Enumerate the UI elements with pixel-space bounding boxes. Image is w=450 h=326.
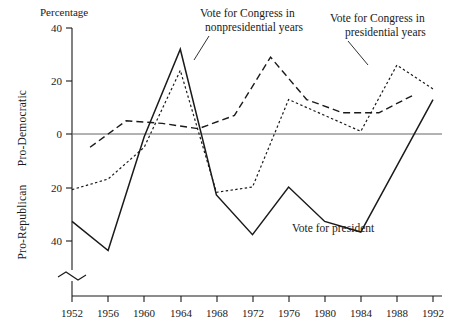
x-ticks-group: 1952 1956 1960 1964 1968 1972 1976 1980 … [61, 296, 444, 319]
y-tick-label-0: 0 [57, 128, 63, 140]
annotation-congress-nonpresidential: Vote for Congress in nonpresidential yea… [194, 7, 304, 60]
x-tick-label-1972: 1972 [242, 307, 264, 319]
x-tick-label-1968: 1968 [206, 307, 229, 319]
y-axis-unit-label: Percentage [40, 6, 88, 18]
y-axis-label-pro-republican: Pro-Republican [16, 184, 29, 259]
annotation-president-line-1: Vote for president [292, 222, 375, 235]
annotation-presidential-line-2: presidential years [345, 26, 426, 39]
y-axis-label-pro-democratic: Pro-Democratic [16, 90, 28, 166]
x-tick-label-1964: 1964 [170, 307, 193, 319]
x-tick-label-1956: 1956 [97, 307, 120, 319]
annotation-nonpresidential-line-2: nonpresidential years [205, 21, 304, 34]
series-line-president [72, 49, 433, 250]
y-ticks-group: 40 20 0 20 40 [51, 22, 72, 247]
y-tick-label-20-neg: 20 [51, 182, 63, 194]
election-swing-line-chart: 40 20 0 20 40 1952 1956 1960 1964 1968 1… [0, 0, 450, 326]
x-tick-label-1976: 1976 [278, 307, 301, 319]
annotation-presidential-leader-line [348, 41, 368, 65]
axes-group [58, 28, 442, 296]
x-tick-label-1992: 1992 [422, 307, 444, 319]
annotation-presidential-line-1: Vote for Congress in [330, 12, 425, 25]
axis-break-icon [58, 272, 86, 280]
y-tick-label-40-neg: 40 [51, 235, 63, 247]
x-tick-label-1984: 1984 [350, 307, 373, 319]
annotation-vote-for-president: Vote for president [292, 222, 375, 235]
y-tick-label-20-pos: 20 [51, 75, 63, 87]
series-line-congress-presidential [72, 65, 433, 192]
x-tick-label-1988: 1988 [386, 307, 409, 319]
x-tick-label-1952: 1952 [61, 307, 83, 319]
x-tick-label-1980: 1980 [314, 307, 337, 319]
x-tick-label-1960: 1960 [133, 307, 156, 319]
annotation-nonpresidential-leader-line [194, 36, 209, 60]
series-group [72, 49, 433, 250]
annotation-congress-presidential: Vote for Congress in presidential years [330, 12, 426, 65]
annotation-nonpresidential-line-1: Vote for Congress in [200, 7, 295, 20]
chart-figure: 40 20 0 20 40 1952 1956 1960 1964 1968 1… [0, 0, 450, 326]
y-tick-label-40-pos: 40 [51, 22, 63, 34]
